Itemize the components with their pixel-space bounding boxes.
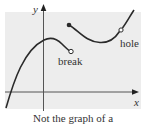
x-axis-label: x <box>133 96 139 108</box>
y-axis-arrow-icon <box>41 4 47 11</box>
y-axis-label: y <box>32 3 38 15</box>
break-label: break <box>58 55 83 67</box>
hole-open-circle-icon <box>119 28 123 32</box>
function-graph-figure: y x break hole Not the graph of a <box>0 0 146 129</box>
break-open-circle-icon <box>69 49 73 53</box>
hole-label: hole <box>120 37 139 49</box>
figure-caption: Not the graph of a <box>0 112 146 124</box>
graph-canvas: y x break hole <box>0 0 146 129</box>
